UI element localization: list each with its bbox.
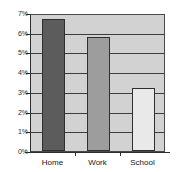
bar [132, 88, 155, 151]
y-tick-label: 3% [2, 89, 28, 96]
y-tick-label: 1% [2, 128, 28, 135]
x-tick-label: Work [74, 158, 122, 167]
y-tick-label: 2% [2, 109, 28, 116]
y-tick-label: 6% [2, 30, 28, 37]
x-tick-mark [120, 152, 121, 156]
plot-area [30, 14, 165, 152]
y-tick-label: 5% [2, 49, 28, 56]
bar-chart-figure: 0%1%2%3%4%5%6%7%HomeWorkSchool [0, 0, 178, 172]
x-tick-mark [75, 152, 76, 156]
x-axis-line [25, 152, 170, 153]
y-tick-label: 7% [2, 10, 28, 17]
y-tick-label: 0% [2, 148, 28, 155]
chart-title [0, 0, 178, 2]
bar [42, 19, 65, 151]
y-tick-label: 4% [2, 69, 28, 76]
x-tick-label: School [119, 158, 167, 167]
bar [87, 37, 110, 151]
x-tick-label: Home [29, 158, 77, 167]
